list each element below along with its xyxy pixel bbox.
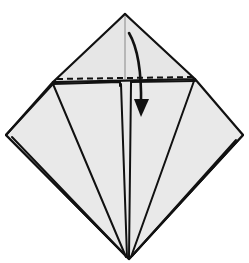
top-triangle-flap (53, 14, 195, 82)
origami-diagram (0, 0, 249, 263)
